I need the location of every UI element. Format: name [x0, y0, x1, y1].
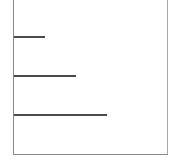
horizontal-line-3 [14, 114, 107, 116]
diagram-frame [13, 0, 168, 155]
horizontal-line-1 [14, 36, 45, 38]
horizontal-line-2 [14, 75, 76, 77]
